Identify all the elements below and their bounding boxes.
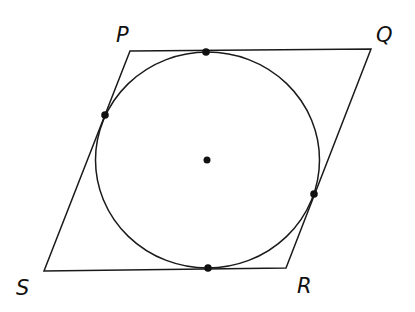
label-r: R [297, 276, 312, 297]
center-point [204, 157, 211, 164]
tangent-point-right [310, 190, 318, 198]
geometry-figure [0, 0, 415, 312]
label-p: P [116, 25, 129, 46]
label-q: Q [376, 25, 393, 46]
tangent-point-bottom [204, 264, 212, 272]
tangent-point-left [101, 111, 109, 119]
tangent-point-top [202, 48, 210, 56]
label-s: S [16, 278, 29, 299]
